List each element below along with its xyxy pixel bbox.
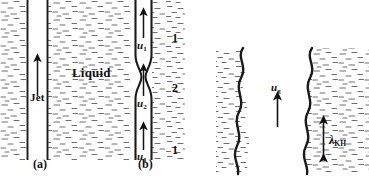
panel-a-jet-label: Jet [30,92,45,103]
panel-b-station-label-bottom: 1 [172,144,178,156]
panel-b-caption: (b) [138,158,153,170]
panel-a-liquid-label: Liquid [72,66,111,79]
panel-a-group [0,0,131,160]
panel-c-wavelength-label: λKH [329,134,346,146]
panel-b-velocity-u2-sub: 2 [143,103,147,111]
panel-c-gas-velocity-label: ug [271,82,281,93]
figure-root: Jet Liquid (a) u1 u2 u1 1 2 1 (b) ug λKH [0,0,369,177]
panel-a-caption: (a) [33,158,47,170]
panel-b-velocity-u1-top-sub: 1 [143,45,147,53]
panel-b-velocity-u1-top: u1 [137,40,147,51]
panel-a-left-stipple [0,0,27,160]
panel-c-gas-velocity-sub: g [277,87,281,95]
panel-b-station-label-top: 1 [172,32,178,44]
panel-a-right-stipple [48,0,131,160]
panel-b-velocity-u2: u2 [137,98,147,109]
panel-b-group [136,0,186,160]
panel-b-right-stipple [152,0,185,160]
panel-b-station-label-mid: 2 [172,82,178,94]
panel-c-wavelength-sub: KH [334,139,346,148]
figure-canvas [0,0,369,177]
